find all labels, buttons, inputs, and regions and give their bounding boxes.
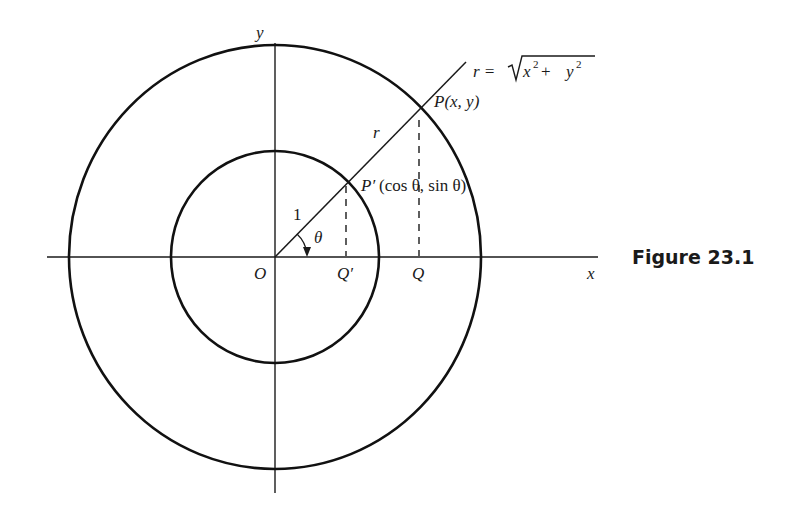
q-prime-label: Q′ — [337, 264, 353, 283]
sqrt-icon — [508, 56, 595, 80]
r-formula-plus: + — [541, 62, 551, 81]
point-p-prime-label: P′ (cos θ, sin θ) — [360, 176, 466, 195]
r-formula: r = x 2 + y 2 — [473, 56, 595, 81]
unit-radius-label: 1 — [293, 205, 302, 224]
point-p-label: P(x, y) — [433, 92, 480, 111]
r-formula-y: y — [564, 62, 574, 81]
q-label: Q — [412, 264, 424, 283]
theta-arrowhead-icon — [303, 247, 311, 257]
x-axis-label: x — [586, 264, 595, 283]
origin-label: O — [254, 264, 266, 283]
p-prime-coords: (cos θ, sin θ) — [379, 176, 466, 195]
unit-circle-figure: y x O Q′ Q 1 r θ P(x, y) P′ (cos θ, sin … — [0, 0, 789, 519]
r-formula-x: x — [522, 62, 531, 81]
p-prime-name: P′ — [360, 176, 375, 195]
theta-label: θ — [314, 228, 322, 247]
r-formula-y-exp: 2 — [576, 58, 582, 70]
r-formula-lhs: r = — [473, 62, 495, 81]
y-axis-label: y — [254, 23, 264, 42]
figure-caption: Figure 23.1 — [632, 246, 754, 268]
r-label: r — [373, 123, 380, 142]
r-formula-x-exp: 2 — [533, 58, 539, 70]
